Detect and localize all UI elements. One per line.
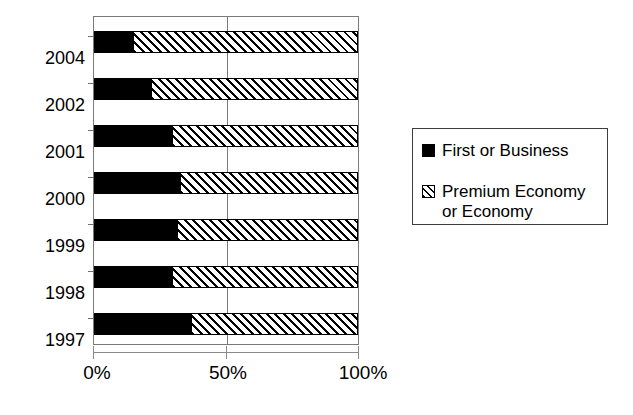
x-axis-labels: 0% 50% 100% [0,362,633,392]
legend-entry-first-or-business: First or Business [422,141,569,161]
bar-segment-premium-economy-or-economy [134,31,358,53]
bar-segment-premium-economy-or-economy [173,266,358,288]
bar-segment-premium-economy-or-economy [178,219,358,241]
legend-label: Premium Economy or Economy [442,182,586,222]
bar-row [94,78,358,100]
bar-segment-first-or-business [94,31,134,53]
hatched-swatch-icon [422,185,435,198]
bar-segment-first-or-business [94,219,178,241]
bar-segment-premium-economy-or-economy [173,125,358,147]
bar-row [94,31,358,53]
x-axis-tick [93,346,94,359]
y-axis-tick-label: 1998 [0,283,85,304]
y-axis-tick-label: 2002 [0,95,85,116]
legend-label: First or Business [442,141,569,161]
bar-segment-premium-economy-or-economy [181,172,358,194]
bar-segment-first-or-business [94,125,173,147]
bar-segment-premium-economy-or-economy [152,78,358,100]
bar-row [94,219,358,241]
x-axis-tick-label: 100% [339,362,388,384]
solid-black-swatch-icon [422,144,435,157]
bars-layer [94,17,358,344]
bar-segment-first-or-business [94,172,181,194]
x-axis-tick [358,346,359,359]
y-axis-tick-label: 2004 [0,48,85,69]
x-axis-line [93,352,359,353]
bar-segment-first-or-business [94,78,152,100]
y-axis-labels: 2004 2002 2001 2000 1999 1998 1997 [0,16,85,345]
bar-row [94,125,358,147]
bar-segment-first-or-business [94,313,192,335]
x-axis-tick-label: 50% [209,362,247,384]
y-axis-tick-label: 1997 [0,330,85,351]
x-axis-tick [226,346,227,359]
stacked-bar-chart-figure: 2004 2002 2001 2000 1999 1998 1997 [0,0,633,415]
bar-row [94,313,358,335]
y-axis-tick-label: 1999 [0,236,85,257]
bar-row [94,172,358,194]
legend-entry-premium-economy-or-economy: Premium Economy or Economy [422,182,586,222]
chart-legend: First or Business Premium Economy or Eco… [412,128,608,225]
x-axis-tick-label: 0% [83,362,110,384]
bar-segment-first-or-business [94,266,173,288]
plot-area [93,16,359,345]
y-axis-tick-label: 2001 [0,142,85,163]
bar-row [94,266,358,288]
bar-segment-premium-economy-or-economy [192,313,358,335]
y-axis-tick-label: 2000 [0,189,85,210]
